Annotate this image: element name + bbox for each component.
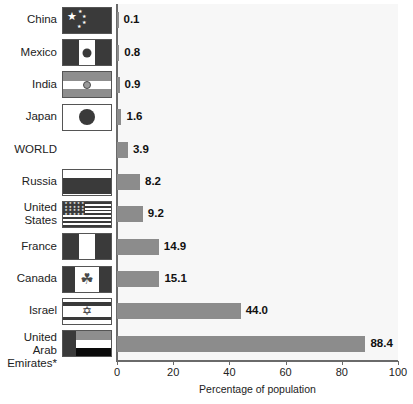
star-icon: ★ bbox=[67, 11, 77, 22]
bar-value-label: 0.1 bbox=[124, 13, 140, 25]
flag-china: ★★★★★ bbox=[62, 7, 112, 34]
emblem-icon bbox=[83, 48, 92, 57]
bar bbox=[117, 271, 159, 287]
star-icon: ★ bbox=[82, 20, 86, 25]
bar bbox=[117, 174, 140, 190]
x-tick-label: 40 bbox=[223, 366, 235, 378]
bar bbox=[117, 109, 121, 125]
flag-canada: ☘ bbox=[62, 266, 112, 293]
bar bbox=[117, 12, 119, 28]
bar bbox=[117, 45, 119, 61]
x-tick bbox=[286, 361, 287, 365]
star-icon: ★ bbox=[82, 14, 86, 19]
flag-japan bbox=[62, 104, 112, 131]
bar-value-label: 0.9 bbox=[125, 78, 141, 90]
bar-value-label: 44.0 bbox=[246, 304, 268, 316]
maple-leaf-icon: ☘ bbox=[80, 272, 93, 287]
x-tick bbox=[117, 361, 118, 365]
bar-value-label: 15.1 bbox=[164, 272, 186, 284]
bar-value-label: 88.4 bbox=[370, 337, 392, 349]
bar bbox=[117, 206, 143, 222]
category-label: China bbox=[0, 13, 57, 26]
star-icon: ★ bbox=[81, 213, 84, 216]
flag-mexico bbox=[62, 39, 112, 66]
star-icon: ★ bbox=[77, 213, 80, 216]
category-label: Israel bbox=[0, 304, 57, 317]
category-label: WORLD bbox=[0, 143, 57, 156]
category-label: France bbox=[0, 240, 57, 253]
bar-value-label: 0.8 bbox=[124, 46, 140, 58]
star-of-david-icon: ✡ bbox=[82, 305, 92, 317]
x-tick-label: 80 bbox=[336, 366, 348, 378]
category-label: Russia bbox=[0, 175, 57, 188]
bar-value-label: 1.6 bbox=[126, 110, 142, 122]
category-label: Mexico bbox=[0, 46, 57, 59]
bar bbox=[117, 303, 241, 319]
category-label: India bbox=[0, 78, 57, 91]
bar-value-label: 3.9 bbox=[133, 143, 149, 155]
sun-disc-icon bbox=[79, 109, 95, 125]
flag-india bbox=[62, 71, 112, 98]
category-label: United Arab Emirates* bbox=[0, 331, 57, 370]
flag-france bbox=[62, 233, 112, 260]
x-tick-label: 20 bbox=[167, 366, 179, 378]
star-icon: ★ bbox=[65, 213, 68, 216]
star-icon: ★ bbox=[77, 24, 81, 29]
flag-uae bbox=[62, 330, 112, 357]
x-tick bbox=[229, 361, 230, 365]
flag-israel: ✡ bbox=[62, 298, 112, 325]
bar bbox=[117, 239, 159, 255]
bar bbox=[117, 336, 365, 352]
x-tick bbox=[398, 361, 399, 365]
bar bbox=[117, 77, 120, 93]
bar-value-label: 8.2 bbox=[145, 175, 161, 187]
chakra-icon bbox=[83, 81, 91, 89]
star-icon: ★ bbox=[69, 213, 72, 216]
star-icon: ★ bbox=[73, 213, 76, 216]
bar-value-label: 14.9 bbox=[164, 240, 186, 252]
x-tick bbox=[342, 361, 343, 365]
category-label: Canada bbox=[0, 272, 57, 285]
bar-chart: China★★★★★0.1Mexico0.8India0.9Japan1.6WO… bbox=[0, 0, 413, 404]
x-axis-title: Percentage of population bbox=[117, 383, 398, 395]
x-axis-line bbox=[116, 360, 398, 362]
bar-value-label: 9.2 bbox=[148, 207, 164, 219]
category-label: Japan bbox=[0, 110, 57, 123]
category-label: United States bbox=[0, 201, 57, 227]
x-tick-label: 100 bbox=[389, 366, 407, 378]
flag-united-states: ★★★★★★★★★★★★★★★★★★★★ bbox=[62, 201, 112, 228]
bar bbox=[117, 142, 128, 158]
x-tick-label: 60 bbox=[279, 366, 291, 378]
x-tick bbox=[173, 361, 174, 365]
x-tick-label: 0 bbox=[114, 366, 120, 378]
flag-russia bbox=[62, 169, 112, 196]
